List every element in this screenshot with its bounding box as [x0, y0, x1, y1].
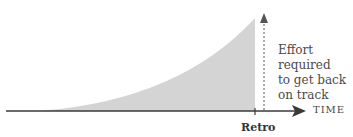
- effort-area: [40, 18, 255, 111]
- time-axis-label: TIME: [313, 104, 345, 115]
- effort-line-2: to get back: [278, 73, 353, 88]
- effort-annotation: Effort required to get back on track: [278, 43, 353, 103]
- effort-arrowhead-icon: [260, 13, 268, 23]
- retro-marker-label: Retro: [241, 121, 275, 134]
- effort-line-1: Effort required: [278, 43, 353, 73]
- effort-line-3: on track: [278, 88, 353, 103]
